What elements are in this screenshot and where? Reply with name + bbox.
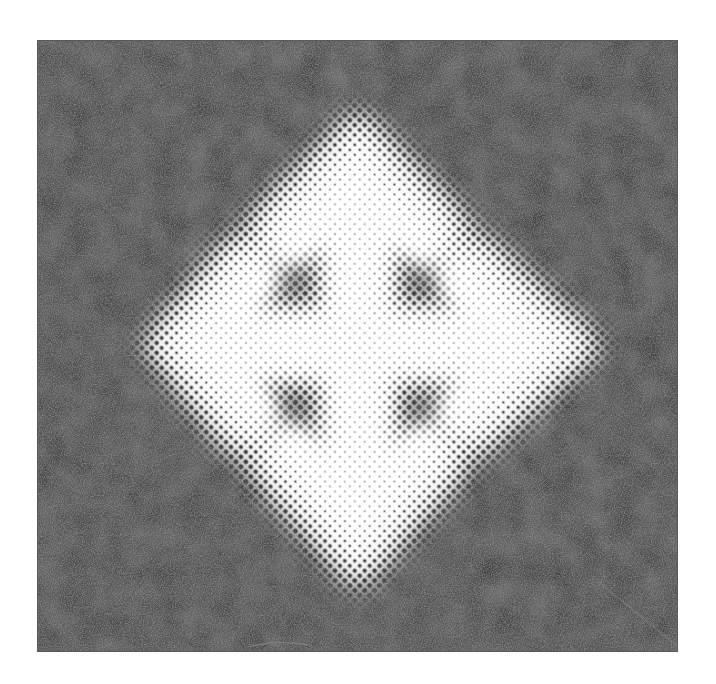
halftone-svg	[38, 41, 677, 651]
move-arrows-icon	[38, 41, 677, 651]
halftone-image-panel	[38, 41, 677, 651]
top-caption-text	[0, 0, 716, 3]
